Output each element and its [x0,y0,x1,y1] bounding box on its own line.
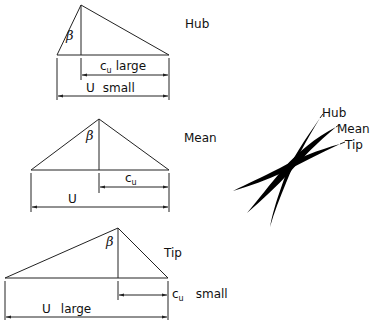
mean-blade-profile [247,127,336,213]
blade-profiles: Hub Mean Tip [233,106,370,227]
tip-triangle: β Tip cusmall Ularge [5,228,228,320]
tip-cu-label: cusmall [172,287,228,303]
tip-label: Tip [163,246,182,260]
hub-beta-label: β [65,28,74,43]
velocity-triangle-diagram: β Hub cularge Usmall β Mean cu U β Tip [0,0,376,331]
blade-tip-label: Tip [344,138,363,152]
blade-hub-label: Hub [322,106,346,120]
hub-triangle: β Hub cularge Usmall [57,5,209,100]
hub-label: Hub [185,17,209,31]
tip-blade-profile [233,144,340,191]
tip-u-label: Ularge [42,302,91,316]
hub-u-label: Usmall [86,81,135,95]
blade-mean-label: Mean [337,122,370,136]
mean-triangle: β Mean cu U [31,119,217,212]
mean-u-label: U [68,192,77,206]
mean-cu-label: cu [125,171,137,187]
mean-label: Mean [184,131,217,145]
tip-beta-label: β [105,234,114,249]
mean-beta-label: β [85,128,94,143]
hub-cu-label: cularge [100,59,146,75]
